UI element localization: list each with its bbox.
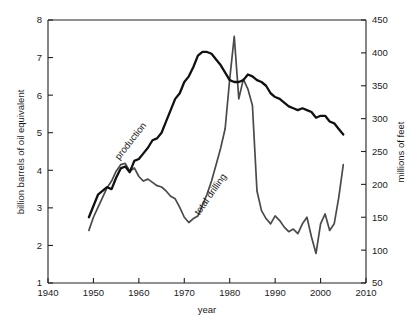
tick-label-right: 150 <box>372 212 388 223</box>
tick-label-x: 1970 <box>174 287 195 298</box>
tick-label-left: 2 <box>37 240 42 251</box>
tick-label-left: 6 <box>37 90 42 101</box>
y-axis-left-title: billion barrels of oil equivalent <box>15 89 26 214</box>
tick-label-left: 7 <box>37 52 42 63</box>
tick-label-right: 350 <box>372 80 388 91</box>
tick-label-x: 1990 <box>265 287 286 298</box>
chart-background <box>0 0 420 329</box>
tick-label-right: 100 <box>372 245 388 256</box>
tick-label-left: 8 <box>37 14 42 25</box>
tick-label-x: 1960 <box>128 287 149 298</box>
chart-container: 12345678 50100150200250300350400450 1940… <box>0 0 420 329</box>
tick-label-right: 200 <box>372 179 388 190</box>
tick-label-left: 3 <box>37 202 42 213</box>
tick-label-right: 250 <box>372 146 388 157</box>
tick-label-left: 4 <box>37 165 42 176</box>
x-axis-title: year <box>198 304 216 315</box>
tick-label-x: 1980 <box>219 287 240 298</box>
tick-label-x: 2010 <box>355 287 376 298</box>
tick-label-x: 1940 <box>37 287 58 298</box>
tick-label-right: 400 <box>372 47 388 58</box>
tick-label-right: 300 <box>372 113 388 124</box>
oil-production-drilling-line-chart: 12345678 50100150200250300350400450 1940… <box>0 0 420 329</box>
y-axis-right-title: millions of feet <box>395 121 406 182</box>
tick-label-left: 5 <box>37 127 42 138</box>
tick-label-x: 2000 <box>310 287 331 298</box>
tick-label-x: 1950 <box>83 287 104 298</box>
tick-label-right: 450 <box>372 14 388 25</box>
